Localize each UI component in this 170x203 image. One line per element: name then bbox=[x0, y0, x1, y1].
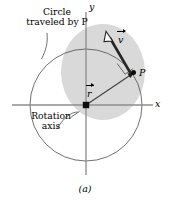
x-axis-label: x bbox=[155, 99, 160, 110]
figure-canvas bbox=[0, 0, 170, 203]
rotation-label-line-2: axis bbox=[42, 120, 60, 131]
figure-caption: (a) bbox=[0, 184, 170, 195]
circle-label-line-2: traveled by P bbox=[26, 16, 88, 27]
point-p-dot bbox=[131, 70, 136, 75]
rotational-motion-figure: Circle traveled by P Rotation axis x y P… bbox=[0, 0, 170, 203]
circle-label-leader bbox=[42, 33, 48, 59]
velocity-vector-label: v bbox=[118, 28, 123, 47]
position-vector-label: r bbox=[87, 82, 92, 101]
velocity-vector-symbol: v bbox=[118, 34, 123, 45]
circle-traveled-label: Circle traveled by P bbox=[20, 7, 94, 28]
point-p-label: P bbox=[139, 68, 145, 79]
position-vector-symbol: r bbox=[87, 88, 92, 99]
rotation-axis-origin-marker bbox=[83, 102, 89, 108]
rotation-axis-label: Rotation axis bbox=[22, 111, 80, 132]
y-axis-label: y bbox=[89, 2, 94, 13]
